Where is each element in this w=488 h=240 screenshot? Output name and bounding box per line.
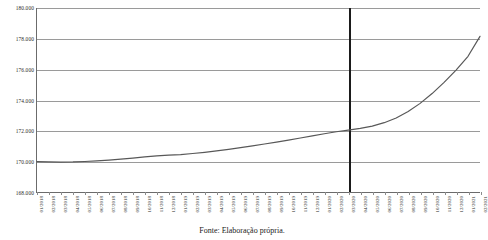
- y-axis-tick-label: 178.000: [16, 36, 34, 42]
- x-axis-tick-label: 09/2020: [423, 196, 428, 212]
- x-axis-tick: [457, 192, 458, 195]
- x-axis-tick: [205, 192, 206, 195]
- x-axis-tick-label: 02/2018: [51, 196, 56, 212]
- x-axis-tick: [301, 192, 302, 195]
- x-axis-tick: [337, 192, 338, 195]
- x-axis-tick-label: 02/2020: [339, 196, 344, 212]
- x-axis-tick: [481, 192, 482, 195]
- x-axis-tick: [373, 192, 374, 195]
- x-axis-tick: [325, 192, 326, 195]
- x-axis-tick: [397, 192, 398, 195]
- x-axis-tick: [433, 192, 434, 195]
- x-axis-tick: [265, 192, 266, 195]
- x-axis-tick: [121, 192, 122, 195]
- x-axis-tick-label: 06/2019: [243, 196, 248, 212]
- series-svg: [37, 8, 480, 192]
- x-axis-tick-label: 04/2019: [219, 196, 224, 212]
- x-axis-tick: [229, 192, 230, 195]
- x-axis-tick: [37, 192, 38, 195]
- x-axis-tick: [145, 192, 146, 195]
- x-axis-tick: [421, 192, 422, 195]
- x-axis-tick: [409, 192, 410, 195]
- y-axis-tick-label: 172.000: [16, 128, 34, 134]
- x-axis-tick-label: 08/2019: [267, 196, 272, 212]
- y-axis-tick-label: 168.000: [16, 190, 34, 196]
- x-axis-tick-label: 01/2019: [183, 196, 188, 212]
- plot-area: 168.000170.000172.000174.000176.000178.0…: [36, 8, 480, 193]
- x-axis-tick-label: 10/2019: [291, 196, 296, 212]
- x-axis-tick-label: 12/2019: [315, 196, 320, 212]
- x-axis-tick: [313, 192, 314, 195]
- x-axis-tick-label: 08/2020: [411, 196, 416, 212]
- x-axis-tick-label: 10/2018: [147, 196, 152, 212]
- x-axis-tick: [241, 192, 242, 195]
- x-axis-tick-label: 03/2020: [351, 196, 356, 212]
- x-axis-tick-label: 07/2019: [255, 196, 260, 212]
- x-axis-tick-label: 11/2020: [447, 196, 452, 212]
- x-axis-tick: [469, 192, 470, 195]
- x-axis-tick-label: 04/2020: [363, 196, 368, 212]
- x-axis-tick-label: 04/2018: [75, 196, 80, 212]
- x-axis-tick: [445, 192, 446, 195]
- x-axis-tick: [253, 192, 254, 195]
- x-axis-tick-label: 02/2021: [483, 196, 488, 212]
- x-axis-tick: [157, 192, 158, 195]
- figure-caption: Fonte: Elaboração própria.: [0, 226, 484, 235]
- x-axis-tick-label: 02/2019: [195, 196, 200, 212]
- x-axis-tick-label: 07/2020: [399, 196, 404, 212]
- x-axis-tick-label: 10/2020: [435, 196, 440, 212]
- x-axis-tick-label: 09/2018: [135, 196, 140, 212]
- x-axis-tick-label: 08/2018: [123, 196, 128, 212]
- x-axis-tick-label: 05/2019: [231, 196, 236, 212]
- x-axis-tick: [133, 192, 134, 195]
- x-axis-tick-label: 03/2019: [207, 196, 212, 212]
- x-axis-tick-label: 05/2018: [87, 196, 92, 212]
- x-axis-tick: [277, 192, 278, 195]
- x-axis-tick: [49, 192, 50, 195]
- y-axis-tick-label: 174.000: [16, 98, 34, 104]
- x-axis-tick-label: 03/2018: [63, 196, 68, 212]
- x-axis-tick: [73, 192, 74, 195]
- x-axis-tick: [349, 192, 350, 195]
- y-axis-tick-label: 170.000: [16, 159, 34, 165]
- x-axis-tick: [61, 192, 62, 195]
- x-axis-tick: [109, 192, 110, 195]
- x-axis-tick-label: 09/2019: [279, 196, 284, 212]
- gridline: [37, 193, 480, 194]
- x-axis-tick-label: 01/2018: [39, 196, 44, 212]
- x-axis-tick-label: 01/2020: [327, 196, 332, 212]
- x-axis-tick-label: 05/2020: [375, 196, 380, 212]
- x-axis-tick: [217, 192, 218, 195]
- y-axis-tick-label: 176.000: [16, 67, 34, 73]
- x-axis-tick: [289, 192, 290, 195]
- x-axis-tick: [385, 192, 386, 195]
- x-axis-tick: [361, 192, 362, 195]
- series-line-0: [37, 36, 480, 162]
- x-axis-tick: [85, 192, 86, 195]
- x-axis-tick: [181, 192, 182, 195]
- x-axis-tick-label: 06/2018: [99, 196, 104, 212]
- x-axis-tick-label: 07/2018: [111, 196, 116, 212]
- x-axis-tick-label: 11/2018: [159, 196, 164, 212]
- x-axis-tick: [193, 192, 194, 195]
- x-axis-tick-label: 06/2020: [387, 196, 392, 212]
- x-axis-tick-label: 12/2018: [171, 196, 176, 212]
- y-axis-tick-label: 180.000: [16, 5, 34, 11]
- x-axis-tick-label: 11/2019: [303, 196, 308, 212]
- x-axis-tick: [169, 192, 170, 195]
- x-axis-tick: [97, 192, 98, 195]
- x-axis-tick-label: 12/2020: [459, 196, 464, 212]
- x-axis-tick-label: 01/2021: [471, 196, 476, 212]
